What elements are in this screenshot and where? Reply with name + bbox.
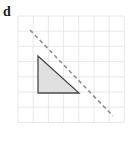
figure-canvas [0,0,134,141]
grid [18,16,124,122]
figure-panel: d [0,0,134,141]
